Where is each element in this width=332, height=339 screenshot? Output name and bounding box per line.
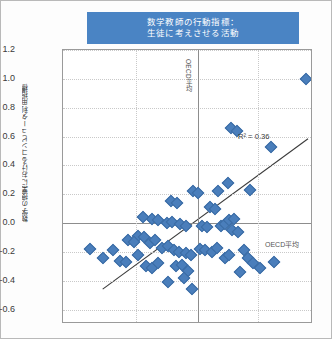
gridline-horizontal [63,137,311,138]
y-axis-tick-label: 0.6 [0,131,15,141]
chart-title: 数学教師の行動指標： 生徒に考えさせる活動 [87,12,299,44]
gridline-vertical [136,50,137,322]
gridline-horizontal [63,194,311,195]
y-axis-tick-label: 0.8 [0,102,15,112]
chart-container: 数学教師の行動指標： 生徒に考えさせる活動 数学の授業におけるコンピュータ利用指… [0,0,332,339]
y-axis-tick-label: -0.6 [0,304,15,314]
gridline-horizontal [63,108,311,109]
y-axis-label: 数学の授業におけるコンピュータ利用指標 [21,63,35,243]
y-axis-tick-label: 0.4 [0,159,15,169]
chart-title-line-2: 生徒に考えさせる活動 [147,28,239,39]
gridline-horizontal [63,310,311,311]
chart-title-line-1: 数学教師の行動指標： [147,17,239,28]
y-axis-tick-label: 0.0 [0,217,15,227]
gridline-horizontal [63,165,311,166]
y-axis-tick-label: 1.0 [0,73,15,83]
y-axis-tick-label: 1.2 [0,44,15,54]
r-squared-label: R² = 0.36 [238,132,269,141]
y-axis-tick-label: 0.2 [0,188,15,198]
oecd-average-horizontal-label: OECD平均 [265,239,299,249]
oecd-average-vertical-label: OECD平均 [184,59,193,92]
y-axis-tick-label: -0.2 [0,246,15,256]
gridline-horizontal [63,50,311,51]
y-axis-tick-label: -0.4 [0,275,15,285]
gridline-vertical [258,50,259,322]
